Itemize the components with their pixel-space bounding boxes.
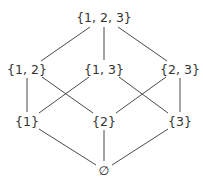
edge-n23-n2 <box>116 77 166 113</box>
edge-n123-n23 <box>118 27 167 61</box>
hasse-diagram: {1, 2, 3}{1, 2}{1, 3}{2, 3}{1}{2}{3}∅ <box>0 0 203 187</box>
edge-n1-n0 <box>39 129 96 165</box>
node-n2: {2} <box>92 114 116 129</box>
node-n12: {1, 2} <box>7 62 47 77</box>
node-n23: {2, 3} <box>160 62 200 77</box>
edge-n12-n2 <box>42 77 93 113</box>
edge-n13-n3 <box>119 77 168 113</box>
node-n13: {1, 3} <box>84 62 124 77</box>
node-n0: ∅ <box>99 163 110 178</box>
edge-n123-n12 <box>41 27 90 61</box>
node-n3: {3} <box>168 114 192 129</box>
edge-n3-n0 <box>112 129 168 165</box>
node-n1: {1} <box>15 114 39 129</box>
edges-group <box>27 27 180 165</box>
node-n123: {1, 2, 3} <box>76 10 132 25</box>
edge-n13-n1 <box>39 77 89 113</box>
